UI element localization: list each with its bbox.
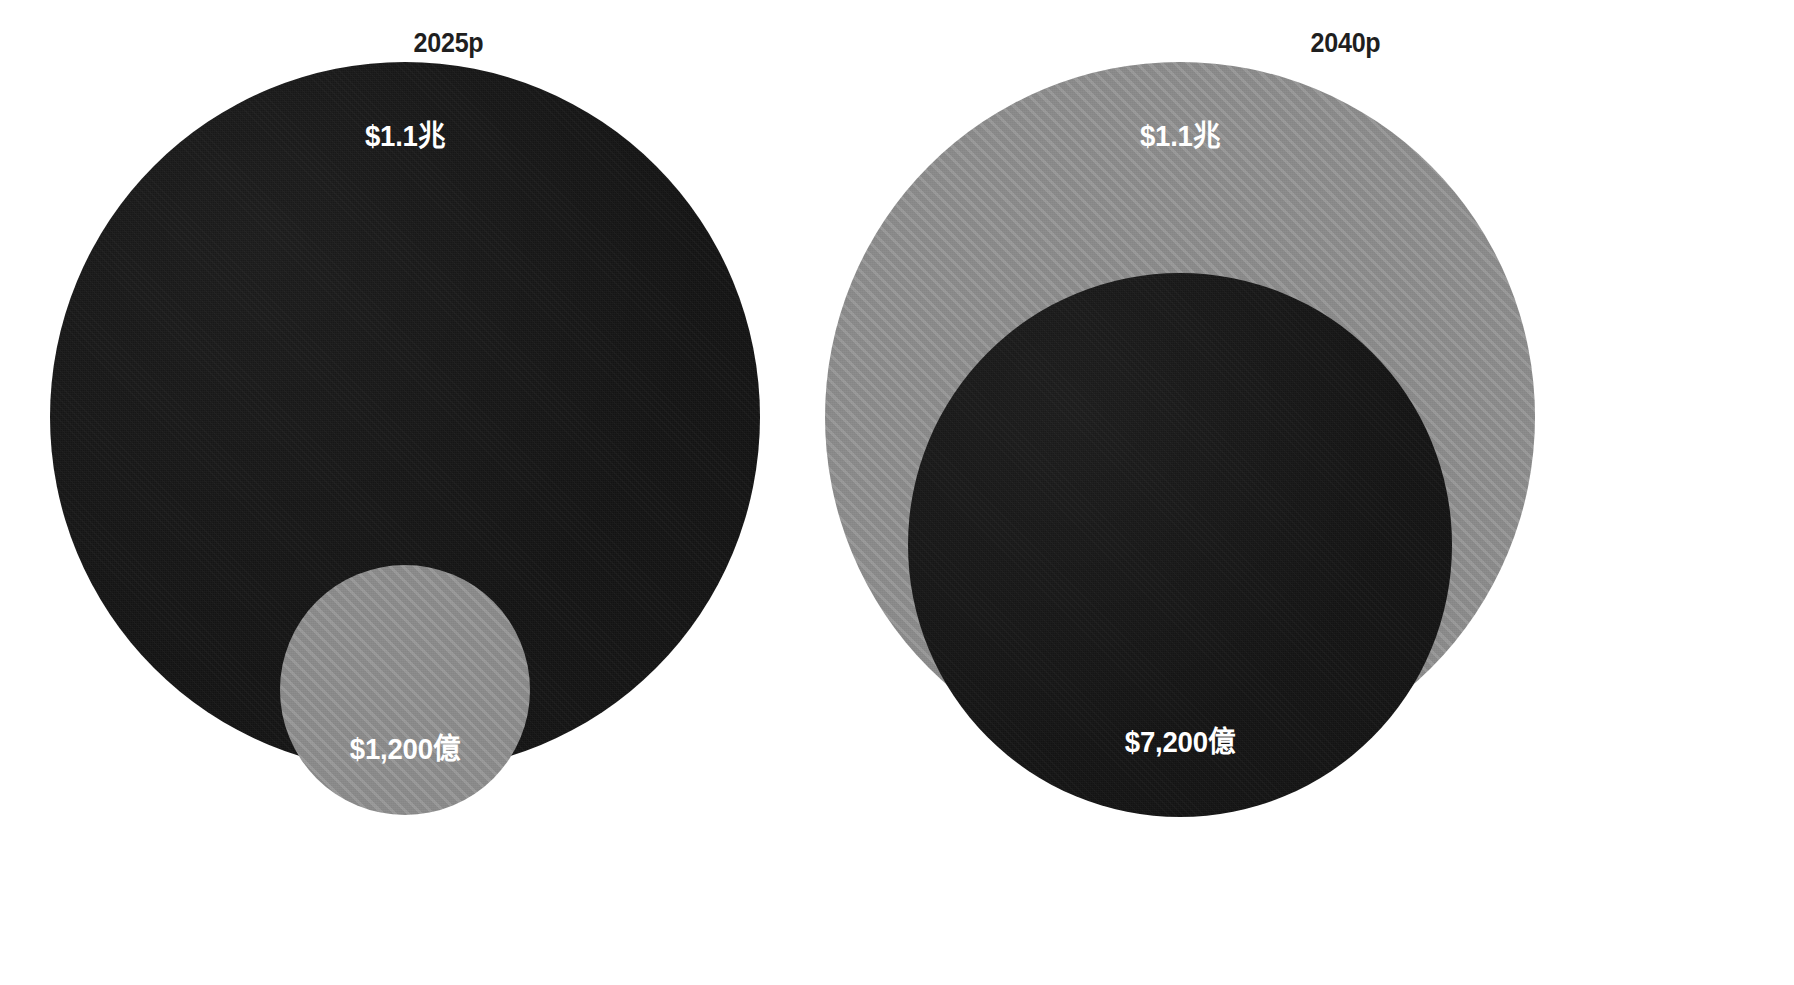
- bubble-chart: 2025p $1.1兆 $1,200億 2040p $1.1兆 $7,200億: [0, 0, 1794, 985]
- panel-title-2040p: 2040p: [928, 28, 1762, 59]
- bubble-label-segment-2040: $7,200億: [1125, 718, 1235, 760]
- chart-panel-2025p: 2025p $1.1兆 $1,200億: [0, 0, 897, 985]
- bubble-label-segment-2025: $1,200億: [350, 725, 460, 767]
- bubble-label-total-2040: $1.1兆: [1140, 112, 1220, 154]
- panel-title-2025p: 2025p: [31, 28, 865, 59]
- chart-panel-2040p: 2040p $1.1兆 $7,200億: [897, 0, 1794, 985]
- bubble-label-total-2025: $1.1兆: [365, 112, 445, 154]
- bubble-texture-overlay: [280, 565, 530, 815]
- bubble-segment-2025[interactable]: [280, 565, 530, 815]
